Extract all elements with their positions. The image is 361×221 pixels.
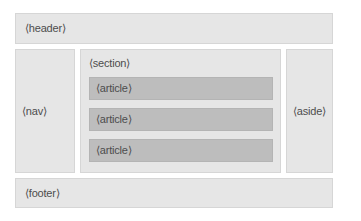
article-label: ⟨article⟩ (96, 113, 132, 126)
article-block: ⟨article⟩ (89, 77, 273, 100)
article-label: ⟨article⟩ (96, 82, 132, 95)
footer-block: ⟨footer⟩ (15, 178, 333, 208)
article-label: ⟨article⟩ (96, 144, 132, 157)
nav-block: ⟨nav⟩ (15, 49, 75, 173)
footer-label: ⟨footer⟩ (25, 187, 60, 200)
header-label: ⟨header⟩ (25, 22, 66, 35)
aside-label: ⟨aside⟩ (293, 105, 326, 118)
aside-block: ⟨aside⟩ (286, 49, 333, 173)
article-block: ⟨article⟩ (89, 108, 273, 131)
nav-label: ⟨nav⟩ (22, 105, 47, 118)
section-block: ⟨section⟩ ⟨article⟩ ⟨article⟩ ⟨article⟩ (80, 49, 281, 173)
header-block: ⟨header⟩ (15, 13, 333, 44)
article-block: ⟨article⟩ (89, 139, 273, 162)
section-label: ⟨section⟩ (89, 57, 130, 70)
